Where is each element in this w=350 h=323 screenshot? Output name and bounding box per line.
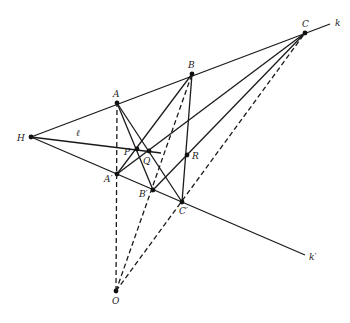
point-h — [29, 135, 34, 140]
label-Q: Q — [143, 156, 151, 166]
line-B-C1 — [182, 74, 192, 202]
label-R: R — [191, 151, 199, 161]
point-b1 — [151, 188, 156, 193]
point-c1 — [180, 200, 185, 205]
label-B-prime: B′ — [138, 189, 148, 199]
point-q — [147, 149, 152, 154]
solid-lines — [31, 24, 330, 255]
label-C: C — [302, 19, 309, 29]
line-O-B — [116, 74, 192, 291]
point-b — [190, 72, 195, 77]
label-A-prime: A′ — [103, 174, 113, 184]
line-C-A1 — [117, 33, 305, 174]
line-k-prime — [31, 137, 305, 255]
label-H: H — [16, 133, 25, 143]
point-a1 — [115, 172, 120, 177]
line-O-A — [116, 103, 117, 291]
label-C-prime: C′ — [179, 206, 188, 216]
desargues-diagram: H A B C A′ B′ C′ P Q R O k k′ ℓ — [0, 0, 350, 323]
label-A: A — [112, 89, 120, 99]
labels: H A B C A′ B′ C′ P Q R O k k′ ℓ — [16, 18, 340, 306]
point-c — [303, 31, 308, 36]
label-line-k-prime: k′ — [309, 252, 317, 262]
label-B: B — [187, 60, 195, 70]
point-o — [114, 289, 119, 294]
line-C-B1 — [153, 33, 305, 190]
point-a — [115, 101, 120, 106]
points — [29, 31, 308, 294]
point-r — [185, 153, 190, 158]
label-line-k: k — [335, 18, 340, 28]
label-O: O — [112, 296, 120, 306]
label-P: P — [123, 147, 131, 157]
label-line-ell: ℓ — [76, 128, 80, 138]
line-k — [31, 24, 330, 137]
point-p — [135, 147, 140, 152]
